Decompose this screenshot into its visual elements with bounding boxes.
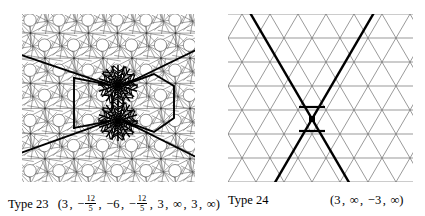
caption-left-term3: −6	[106, 197, 119, 211]
fraction-numerator: 12	[85, 194, 96, 203]
caption-right-sep3: ,	[381, 193, 387, 207]
caption-left-fraction-2: 125	[137, 194, 148, 213]
caption-right-term4: ∞	[390, 193, 399, 207]
figure-type-24	[228, 14, 413, 182]
caption-right-label: Type 24	[228, 193, 268, 207]
caption-type-24-label: Type 24	[228, 194, 268, 207]
fraction-denominator: 5	[137, 203, 148, 213]
caption-left-label: Type 23	[8, 197, 48, 211]
fraction-denominator: 5	[85, 203, 96, 213]
caption-left-term8: ∞	[207, 197, 216, 211]
caption-right-sep1: ,	[340, 193, 346, 207]
triangular-lattice-svg	[228, 14, 413, 182]
caption-left-sep2: ,	[97, 197, 103, 211]
caption-right-close: )	[399, 193, 403, 207]
caption-left-term5: 3	[158, 197, 164, 211]
fraction-numerator: 12	[137, 194, 148, 203]
caption-left-sep7: ,	[197, 197, 203, 211]
figure-type-23	[22, 14, 195, 182]
caption-left-sep6: ,	[182, 197, 188, 211]
caption-type-23: Type 23 (3, −125, −6, −125, 3, ∞, 3, ∞)	[8, 194, 220, 213]
caption-right-term3: −3	[368, 193, 381, 207]
caption-left-sign2: −	[77, 197, 84, 211]
caption-left-sign4: −	[129, 197, 136, 211]
lattice-background	[228, 14, 413, 182]
caption-right-term2: ∞	[350, 193, 359, 207]
caption-left-sep4: ,	[148, 197, 154, 211]
caption-left-sep5: ,	[164, 197, 170, 211]
pentagonal-tiling-svg	[22, 14, 195, 182]
caption-type-24-formula: (3, ∞, −3, ∞)	[330, 194, 404, 207]
caption-right-sep2: ,	[359, 193, 365, 207]
caption-left-term6: ∞	[173, 197, 182, 211]
caption-left-close: )	[216, 197, 220, 211]
caption-left-sep3: ,	[119, 197, 125, 211]
crossing-node-marker	[309, 116, 315, 122]
caption-left-fraction-1: 125	[85, 194, 96, 213]
caption-left-sep1: ,	[68, 197, 74, 211]
